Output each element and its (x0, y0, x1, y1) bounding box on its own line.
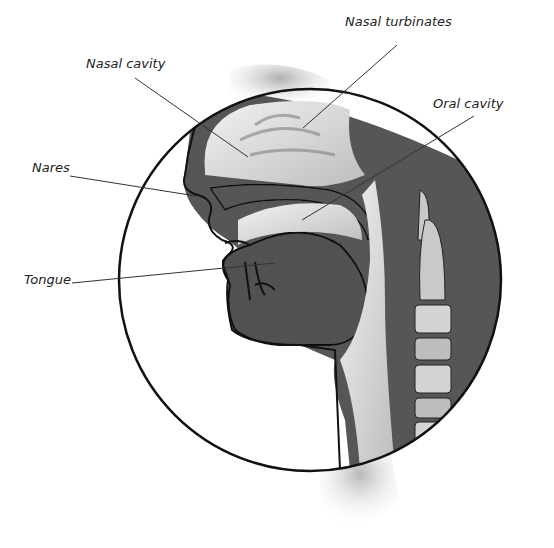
label-tongue: Tongue (24, 272, 71, 287)
cross-section (184, 93, 500, 470)
anatomy-diagram: Nasal turbinates Nasal cavity Oral cavit… (0, 0, 554, 548)
label-nasal-turbinates: Nasal turbinates (345, 14, 452, 29)
tongue-region (222, 233, 367, 346)
label-nares: Nares (32, 160, 70, 175)
diagram-canvas (0, 0, 554, 548)
leader-line-nares (70, 176, 196, 196)
label-nasal-cavity: Nasal cavity (86, 56, 165, 71)
label-oral-cavity: Oral cavity (433, 96, 504, 111)
